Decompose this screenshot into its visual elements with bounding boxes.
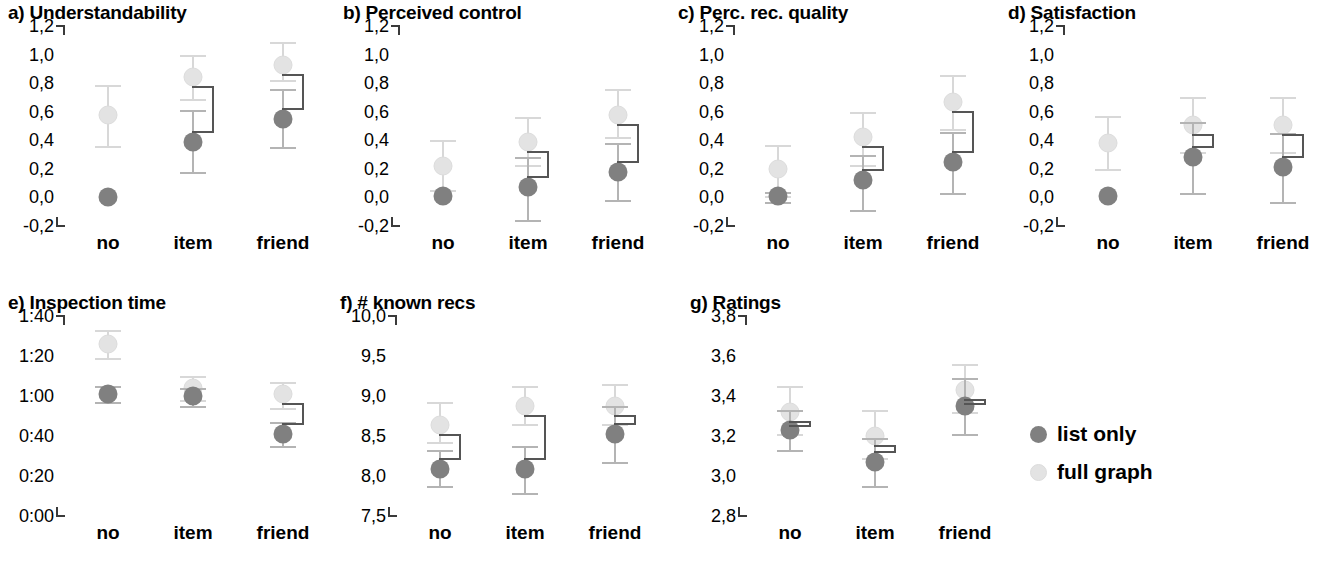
x-tick-label-friend: friend	[927, 232, 980, 254]
error-bar-cap-bottom	[605, 200, 631, 202]
x-tick-label-no: no	[96, 232, 119, 254]
x-tick-label-friend: friend	[592, 232, 645, 254]
data-point-list-only	[1184, 148, 1203, 167]
x-axis-labels: noitemfriend	[1000, 232, 1330, 262]
panel-e: e) Inspection time1:401:201:000:400:200:…	[0, 290, 330, 572]
data-point-full-graph	[944, 92, 963, 111]
error-bar-cap-top	[602, 406, 628, 408]
error-bar-cap-bottom	[427, 486, 453, 488]
data-point-list-only	[606, 425, 625, 444]
error-bar-cap-top	[862, 410, 888, 412]
y-tick-label: 0,0	[337, 188, 389, 206]
error-bar-cap-bottom	[512, 493, 538, 495]
data-point-list-only	[184, 132, 203, 151]
data-point-list-only	[1099, 187, 1118, 206]
x-tick-label-no: no	[1096, 232, 1119, 254]
y-tick-label: 0:40	[2, 427, 54, 445]
axis-corner-top	[738, 315, 747, 325]
data-point-full-graph	[99, 335, 118, 354]
axis-corner-bottom	[56, 507, 65, 517]
error-bar-cap-top	[605, 89, 631, 91]
x-tick-label-no: no	[778, 522, 801, 544]
significance-bracket	[527, 151, 549, 179]
data-point-full-graph	[1274, 115, 1293, 134]
figure-multi-panel-chart: a) Understandability1,21,00,80,60,40,20,…	[0, 0, 1330, 572]
data-point-list-only	[854, 171, 873, 190]
significance-bracket	[617, 124, 639, 163]
data-point-list-only	[434, 187, 453, 206]
axis-corner-bottom	[738, 507, 747, 517]
error-bar-cap-top	[430, 140, 456, 142]
error-bar-cap-top	[952, 364, 978, 366]
significance-bracket	[964, 399, 986, 405]
plot-area-b: 1,21,00,80,60,40,20,0-0,2	[335, 26, 665, 226]
data-point-full-graph	[1099, 134, 1118, 153]
data-point-list-only	[274, 425, 293, 444]
axis-corner-bottom	[726, 217, 735, 227]
significance-bracket	[952, 111, 974, 153]
x-tick-label-no: no	[431, 232, 454, 254]
y-tick-label: 0,4	[672, 131, 724, 149]
error-bar-cap-bottom	[515, 220, 541, 222]
x-tick-label-item: item	[1173, 232, 1212, 254]
y-tick-label: 0,6	[337, 103, 389, 121]
panel-g: g) Ratings3,83,63,43,23,02,8noitemfriend	[682, 290, 1012, 572]
y-tick-label: 0,6	[672, 103, 724, 121]
x-tick-label-no: no	[428, 522, 451, 544]
y-tick-label: 1:00	[2, 387, 54, 405]
x-tick-label-item: item	[173, 522, 212, 544]
axis-corner-bottom	[388, 507, 397, 517]
y-tick-label: 3,2	[684, 427, 736, 445]
error-bar-cap-top	[512, 386, 538, 388]
legend-marker-icon	[1030, 426, 1047, 443]
y-tick-label: 0,2	[337, 160, 389, 178]
y-tick-label: 0,8	[337, 74, 389, 92]
y-tick-label: 3,4	[684, 387, 736, 405]
y-tick-label: 0:20	[2, 467, 54, 485]
x-tick-label-item: item	[173, 232, 212, 254]
significance-bracket	[439, 434, 461, 460]
y-tick-label: 0,8	[2, 74, 54, 92]
x-axis-labels: noitemfriend	[0, 522, 330, 552]
y-tick-label: 1:20	[2, 347, 54, 365]
y-tick-label: 1,0	[337, 46, 389, 64]
y-tick-label: 9,5	[334, 347, 386, 365]
error-bar-cap-bottom	[95, 146, 121, 148]
error-bar-cap-top	[940, 75, 966, 77]
data-point-list-only	[866, 453, 885, 472]
error-bar-cap-top	[777, 386, 803, 388]
plot-area-g: 3,83,63,43,23,02,8	[682, 316, 1012, 516]
y-tick-label: 0,6	[2, 103, 54, 121]
y-tick-label: 0,2	[1002, 160, 1054, 178]
x-tick-label-friend: friend	[257, 522, 310, 544]
axis-corner-top	[1056, 25, 1065, 35]
data-point-full-graph	[274, 55, 293, 74]
error-bar-cap-top	[850, 112, 876, 114]
data-point-list-only	[609, 162, 628, 181]
error-bar-cap-bottom	[180, 172, 206, 174]
data-point-list-only	[431, 459, 450, 478]
panel-a: a) Understandability1,21,00,80,60,40,20,…	[0, 0, 330, 282]
y-tick-label: 1,0	[672, 46, 724, 64]
error-bar-cap-top	[1095, 116, 1121, 118]
data-point-full-graph	[431, 415, 450, 434]
data-point-full-graph	[516, 396, 535, 415]
data-point-full-graph	[434, 157, 453, 176]
legend-item-list_only: list only	[1030, 415, 1153, 453]
error-bar-cap-bottom	[270, 446, 296, 448]
y-tick-label: 1:40	[2, 307, 54, 325]
significance-bracket	[1282, 134, 1304, 159]
error-bar-cap-top	[515, 117, 541, 119]
y-tick-label: 8,0	[334, 467, 386, 485]
error-bar-cap-bottom	[270, 147, 296, 149]
data-point-list-only	[274, 109, 293, 128]
y-tick-label: 3,6	[684, 347, 736, 365]
y-tick-label: 0,0	[672, 188, 724, 206]
x-axis-labels: noitemfriend	[670, 232, 1000, 262]
error-bar-cap-bottom	[1270, 202, 1296, 204]
x-axis-labels: noitemfriend	[335, 232, 665, 262]
axis-corner-top	[391, 25, 400, 35]
x-tick-label-friend: friend	[257, 232, 310, 254]
plot-area-a: 1,21,00,80,60,40,20,0-0,2	[0, 26, 330, 226]
data-point-full-graph	[519, 132, 538, 151]
